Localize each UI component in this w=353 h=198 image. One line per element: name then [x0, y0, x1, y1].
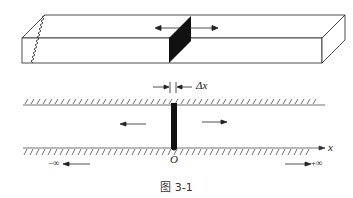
pos-inf-label: +∞ [311, 158, 323, 168]
figure-caption: 图 3-1 [0, 178, 353, 194]
neg-inf-arrow-icon [63, 162, 90, 166]
neg-inf-label: −∞ [48, 158, 60, 168]
delta-x-label: Δx [196, 79, 207, 91]
origin-label: O [170, 153, 178, 165]
piston [171, 103, 177, 149]
delta-x-marker [153, 82, 192, 93]
left-arrow-icon [120, 122, 146, 126]
pos-inf-arrow-icon [285, 162, 311, 166]
right-arrow-icon [202, 120, 227, 124]
diagram [0, 0, 353, 198]
axis-x-label: x [328, 141, 333, 153]
origin-point [172, 146, 177, 151]
